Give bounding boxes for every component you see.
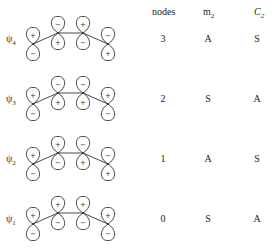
- sigma-bond-line: [33, 213, 108, 224]
- atom-node-dot: [32, 103, 34, 105]
- c2-value: S: [254, 153, 260, 164]
- atom-node-dot: [107, 223, 109, 225]
- phase-sign: +: [30, 212, 36, 220]
- atom-node-dot: [82, 32, 84, 34]
- nodes-value: 2: [161, 93, 166, 104]
- atom-node-dot: [82, 212, 84, 214]
- phase-sign: +: [105, 92, 111, 100]
- nodes-value: 0: [161, 213, 166, 224]
- atom-node-dot: [107, 103, 109, 105]
- atom-node-dot: [57, 92, 59, 94]
- psi-label: ψ4: [6, 33, 16, 47]
- m2-value: S: [205, 93, 211, 104]
- atom-node-dot: [107, 163, 109, 165]
- m2-value: A: [204, 33, 211, 44]
- phase-sign: −: [80, 219, 86, 227]
- phase-sign: +: [80, 21, 86, 29]
- phase-sign: +: [80, 99, 86, 107]
- c2-value: A: [253, 93, 260, 104]
- atom-node-dot: [57, 152, 59, 154]
- psi-label: ψ3: [6, 93, 16, 107]
- phase-sign: −: [30, 230, 36, 238]
- m2-value: S: [205, 213, 211, 224]
- phase-sign: −: [105, 230, 111, 238]
- phase-sign: −: [80, 141, 86, 149]
- phase-sign: +: [80, 159, 86, 167]
- phase-sign: −: [105, 110, 111, 118]
- atom-node-dot: [57, 212, 59, 214]
- phase-sign: +: [30, 92, 36, 100]
- atom-node-dot: [32, 223, 34, 225]
- sigma-bond-line: [33, 33, 108, 44]
- phase-sign: −: [55, 219, 61, 227]
- psi-label: ψ2: [6, 153, 16, 167]
- phase-sign: −: [55, 81, 61, 89]
- phase-sign: −: [80, 39, 86, 47]
- phase-sign: +: [55, 201, 61, 209]
- m2-value: A: [204, 153, 211, 164]
- c2-value: A: [253, 213, 260, 224]
- nodes-value: 3: [161, 33, 166, 44]
- nodes-value: 1: [161, 153, 166, 164]
- phase-sign: +: [55, 141, 61, 149]
- sigma-bond-line: [33, 153, 108, 164]
- phase-sign: +: [55, 99, 61, 107]
- sigma-bond-line: [33, 93, 108, 104]
- phase-sign: +: [105, 170, 111, 178]
- phase-sign: −: [30, 50, 36, 58]
- phase-sign: −: [105, 152, 111, 160]
- header-m2: m2: [203, 6, 214, 20]
- phase-sign: +: [30, 32, 36, 40]
- orbital-row: +−−++−−+: [26, 16, 114, 60]
- atom-node-dot: [107, 43, 109, 45]
- c2-value: S: [254, 33, 260, 44]
- phase-sign: +: [80, 201, 86, 209]
- phase-sign: +: [105, 212, 111, 220]
- header-nodes: nodes: [152, 6, 175, 17]
- phase-sign: −: [30, 110, 36, 118]
- phase-sign: −: [105, 32, 111, 40]
- atom-node-dot: [32, 43, 34, 45]
- orbital-row: +−−+−++−: [26, 76, 114, 120]
- atom-node-dot: [82, 92, 84, 94]
- molecular-orbital-diagram: +−−++−−++−−+−++−+−+−−+−++−+−+−+−: [0, 0, 272, 249]
- phase-sign: −: [30, 170, 36, 178]
- atom-node-dot: [57, 32, 59, 34]
- atom-node-dot: [32, 163, 34, 165]
- orbital-row: +−+−−+−+: [26, 136, 114, 180]
- phase-sign: +: [55, 39, 61, 47]
- phase-sign: −: [80, 81, 86, 89]
- phase-sign: +: [105, 50, 111, 58]
- phase-sign: −: [55, 159, 61, 167]
- orbital-row: +−+−+−+−: [26, 196, 114, 240]
- phase-sign: +: [30, 152, 36, 160]
- phase-sign: −: [55, 21, 61, 29]
- header-c2: C2: [254, 6, 264, 20]
- psi-label: ψ1: [6, 213, 16, 227]
- atom-node-dot: [82, 152, 84, 154]
